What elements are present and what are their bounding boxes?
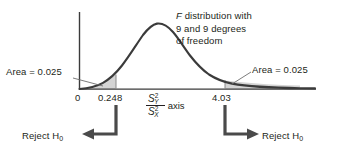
denominator-subscript: X [154, 111, 158, 118]
reject-left-subscript: 0 [59, 135, 63, 142]
variance-ratio-fraction: S2Y S2X [146, 94, 165, 117]
chart-title-line-3: of freedom [176, 35, 252, 48]
tick-label-0: 0 [75, 92, 80, 104]
x-axis-label: S2Y S2X axis [146, 94, 185, 117]
area-left-leader-line [73, 78, 103, 86]
f-distribution-figure: F distribution with 9 and 9 degrees of f… [0, 0, 339, 157]
chart-title-line-2: 9 and 9 degrees [176, 23, 252, 36]
area-right-label: Area = 0.025 [252, 64, 308, 76]
fraction-denominator: S2X [146, 107, 165, 117]
chart-title-line-1-rest: distribution with [182, 10, 252, 21]
area-left-label: Area = 0.025 [6, 66, 62, 78]
tick-label-upper-critical: 4.03 [212, 92, 231, 104]
reject-right-text: Reject H [262, 130, 299, 141]
reject-left-label: Reject H0 [22, 130, 63, 145]
reject-right-subscript: 0 [299, 135, 303, 142]
chart-title-block: F distribution with 9 and 9 degrees of f… [176, 10, 252, 48]
reject-right-label: Reject H0 [262, 130, 303, 145]
tick-label-lower-critical: 0.248 [98, 92, 122, 104]
reject-right-arrow [225, 105, 259, 140]
reject-left-text: Reject H [22, 130, 59, 141]
reject-left-arrow [82, 105, 116, 140]
axis-word-label: axis [168, 100, 185, 111]
fraction-numerator: S2Y [146, 94, 165, 104]
numerator-subscript: Y [154, 98, 158, 105]
chart-title-line-1: F distribution with [176, 10, 252, 23]
